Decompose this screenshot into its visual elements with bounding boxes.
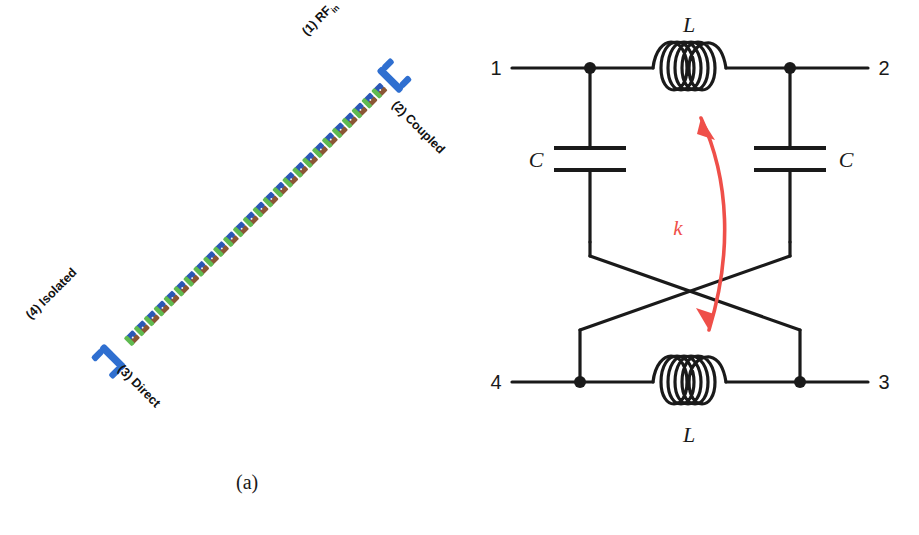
port-number-2: 2 bbox=[878, 57, 889, 79]
panel-a-coupled-line-layout: (1) RFin (2) Coupled (4) Isolated (3) Di… bbox=[0, 0, 470, 535]
unit-cell-array bbox=[124, 82, 388, 346]
inductor-top-coil bbox=[653, 42, 726, 90]
port-number-4: 4 bbox=[490, 371, 501, 393]
capacitor-left-label: C bbox=[529, 147, 544, 172]
node-dot-port4 bbox=[574, 376, 586, 388]
coupling-coefficient-label: k bbox=[673, 216, 683, 240]
circuit-svg: k L L C C 1 2 3 4 bbox=[470, 0, 919, 470]
node-dot-port3 bbox=[794, 376, 806, 388]
wire-cross-right-to-left bbox=[580, 256, 790, 330]
capacitor-right-label: C bbox=[839, 147, 854, 172]
inductor-bottom-label: L bbox=[682, 422, 695, 447]
figure-root: (1) RFin (2) Coupled (4) Isolated (3) Di… bbox=[0, 0, 919, 535]
node-dot-port1 bbox=[584, 62, 596, 74]
node-dot-port2 bbox=[784, 62, 796, 74]
coupled-line-svg bbox=[0, 0, 470, 470]
capacitor-right bbox=[754, 148, 826, 170]
coupling-arrow-group: k bbox=[673, 118, 724, 330]
inductor-top-label: L bbox=[682, 12, 695, 37]
capacitor-left bbox=[554, 148, 626, 170]
coupling-arrow-head-up bbox=[697, 118, 715, 140]
port-number-3: 3 bbox=[878, 371, 889, 393]
panel-b-equivalent-circuit: k L L C C 1 2 3 4 (b) bbox=[470, 0, 919, 535]
coupled-line-body bbox=[124, 82, 388, 346]
inductor-bottom-coil bbox=[653, 356, 726, 404]
wire-cross-left-to-right bbox=[590, 256, 800, 330]
panel-a-caption: (a) bbox=[236, 471, 258, 494]
port-number-1: 1 bbox=[490, 57, 501, 79]
